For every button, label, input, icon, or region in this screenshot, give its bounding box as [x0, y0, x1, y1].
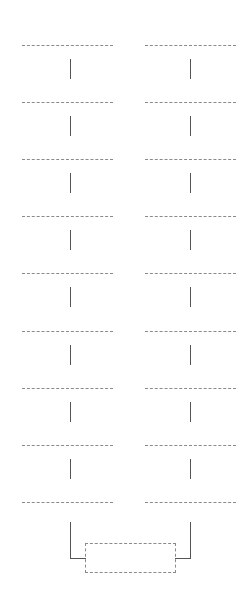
left-connector — [70, 116, 71, 136]
left-connector — [70, 345, 71, 365]
right-node-divider — [145, 445, 236, 446]
right-node-divider — [145, 45, 236, 46]
left-node-divider — [22, 216, 113, 217]
right-connector — [190, 59, 191, 79]
left-node-divider — [22, 159, 113, 160]
left-connector — [70, 230, 71, 250]
merge-node — [85, 543, 176, 573]
left-node-divider — [22, 331, 113, 332]
left-connector — [70, 459, 71, 479]
right-connector — [190, 116, 191, 136]
right-connector — [190, 459, 191, 479]
right-merge-connector — [190, 522, 191, 559]
right-merge-elbow — [175, 558, 191, 559]
left-node-divider — [22, 445, 113, 446]
right-node-divider — [145, 273, 236, 274]
left-connector — [70, 287, 71, 307]
left-merge-elbow — [70, 558, 86, 559]
left-node-divider — [22, 102, 113, 103]
left-connector — [70, 173, 71, 193]
right-node-divider — [145, 502, 236, 503]
right-node-divider — [145, 331, 236, 332]
left-connector — [70, 59, 71, 79]
right-connector — [190, 402, 191, 422]
left-merge-connector — [70, 522, 71, 559]
left-connector — [70, 402, 71, 422]
left-node-divider — [22, 273, 113, 274]
right-connector — [190, 230, 191, 250]
right-node-divider — [145, 216, 236, 217]
left-node-divider — [22, 45, 113, 46]
right-node-divider — [145, 102, 236, 103]
right-node-divider — [145, 388, 236, 389]
right-connector — [190, 173, 191, 193]
right-connector — [190, 345, 191, 365]
left-node-divider — [22, 502, 113, 503]
right-connector — [190, 287, 191, 307]
right-node-divider — [145, 159, 236, 160]
left-node-divider — [22, 388, 113, 389]
